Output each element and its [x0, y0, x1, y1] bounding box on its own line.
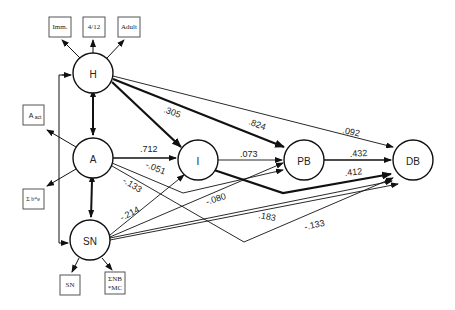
svg-text:act: act	[35, 114, 42, 120]
node-db: DB	[393, 140, 433, 180]
node-sn: SN	[70, 220, 110, 260]
coef-pb-db: .432	[349, 148, 367, 159]
coef-h-db: .092	[342, 125, 361, 138]
node-pb: PB	[284, 140, 324, 180]
coef-h-pb: .824	[247, 117, 267, 133]
node-a: A	[73, 138, 113, 178]
node-h: H	[73, 53, 113, 93]
arrow-h-adult	[107, 40, 124, 58]
coef-i-pb: .073	[240, 149, 258, 159]
coef-a-i: .712	[140, 144, 158, 154]
svg-text:I: I	[197, 156, 200, 167]
bracket-h-sn	[59, 75, 70, 243]
coef-sn-i: -.214	[118, 204, 141, 222]
svg-text:SN: SN	[66, 281, 75, 289]
coef-a-pb: -.051	[144, 160, 167, 177]
arrow-sn-sn	[72, 258, 79, 272]
arrow-a-act	[47, 130, 76, 147]
corr-a-sn	[91, 181, 92, 217]
coef-sn-db-2: -.133	[303, 218, 325, 232]
svg-text:PB: PB	[297, 156, 311, 167]
svg-text:Imm.: Imm.	[53, 23, 68, 31]
indicator-nb-mc: ΣNB *MC	[105, 272, 125, 294]
coef-sn-pb: -.080	[205, 191, 228, 207]
svg-text:Σ b*e: Σ b*e	[26, 196, 40, 202]
indicator-imm: Imm.	[49, 17, 71, 37]
coef-i-db: .412	[344, 166, 362, 178]
path-diagram: Imm. 4/12 Adult A act Σ b*e SN ΣNB *MC	[0, 0, 455, 310]
svg-text:A: A	[29, 112, 34, 119]
svg-text:ΣNB: ΣNB	[108, 275, 122, 283]
svg-text:4/12: 4/12	[88, 23, 101, 31]
arrow-h-imm	[62, 40, 80, 58]
path-sn-i	[110, 175, 184, 235]
indicator-a-act: A act	[23, 105, 44, 125]
coef-sn-db-1: .183	[258, 210, 277, 223]
svg-text:H: H	[89, 69, 96, 80]
svg-text:Adult: Adult	[121, 23, 137, 31]
path-sn-db-2	[110, 184, 398, 240]
node-i: I	[178, 140, 218, 180]
arrow-a-sum	[47, 169, 76, 186]
coef-a-db: -.133	[121, 175, 144, 194]
indicator-sum-be: Σ b*e	[23, 189, 44, 209]
indicator-sn: SN	[60, 275, 80, 295]
coef-h-i: .305	[162, 104, 182, 119]
indicator-adult: Adult	[118, 17, 140, 37]
svg-text:*MC: *MC	[108, 284, 123, 292]
indicator-4-12: 4/12	[83, 17, 105, 37]
svg-text:DB: DB	[406, 156, 420, 167]
svg-text:A: A	[90, 154, 97, 165]
arrow-sn-nb	[102, 258, 112, 270]
svg-text:SN: SN	[83, 236, 97, 247]
